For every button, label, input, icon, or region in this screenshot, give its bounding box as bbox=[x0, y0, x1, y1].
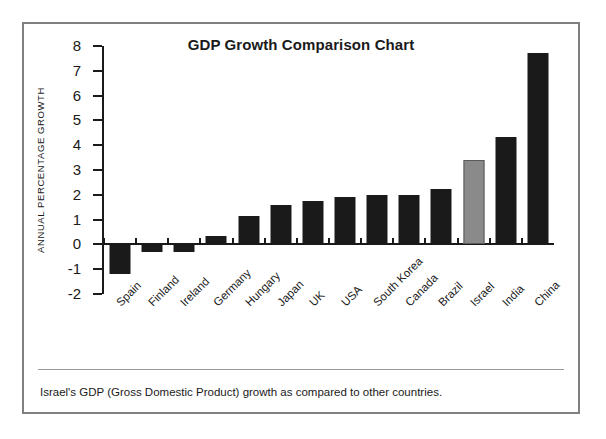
y-axis-tick: 4 bbox=[93, 144, 102, 146]
y-axis-tick: 2 bbox=[93, 194, 102, 196]
x-axis-tick bbox=[360, 238, 362, 244]
y-axis-tick-label: 6 bbox=[73, 86, 81, 103]
x-axis-tick bbox=[135, 238, 137, 244]
y-axis-tick: 7 bbox=[93, 70, 102, 72]
bar-south-korea[interactable] bbox=[367, 195, 388, 245]
bar-brazil[interactable] bbox=[431, 189, 452, 245]
y-axis-tick: 8 bbox=[93, 45, 102, 47]
bar-uk[interactable] bbox=[302, 201, 323, 244]
bar-slot bbox=[361, 46, 393, 294]
y-axis-title: ANNUAL PERCENTAGE GROWTH bbox=[35, 87, 46, 253]
bar-israel[interactable] bbox=[463, 160, 484, 244]
bar-slot bbox=[265, 46, 297, 294]
x-axis-tick bbox=[264, 238, 266, 244]
y-axis-tick: 6 bbox=[93, 95, 102, 97]
y-axis-tick: 0 bbox=[93, 243, 102, 245]
bar-japan[interactable] bbox=[270, 205, 291, 245]
bar-series bbox=[104, 46, 554, 294]
bar-hungary[interactable] bbox=[238, 216, 259, 245]
x-axis-tick bbox=[521, 238, 523, 244]
x-axis-tick bbox=[328, 238, 330, 244]
y-axis-tick-label: 1 bbox=[73, 210, 81, 227]
y-axis-tick-label: -1 bbox=[68, 260, 81, 277]
bar-slot bbox=[104, 46, 136, 294]
y-axis-tick: 3 bbox=[93, 169, 102, 171]
bar-slot bbox=[297, 46, 329, 294]
bar-canada[interactable] bbox=[399, 195, 420, 245]
x-axis-tick bbox=[103, 238, 105, 244]
x-axis-tick bbox=[167, 238, 169, 244]
y-axis-tick-label: 5 bbox=[73, 111, 81, 128]
bar-finland[interactable] bbox=[142, 244, 163, 251]
plot-area: ANNUAL PERCENTAGE GROWTH 876543210-1-2 S… bbox=[102, 46, 554, 338]
bar-usa[interactable] bbox=[335, 197, 356, 244]
bar-germany[interactable] bbox=[206, 236, 227, 245]
x-axis-tick bbox=[457, 238, 459, 244]
bar-ireland[interactable] bbox=[174, 244, 195, 251]
x-axis-tick bbox=[424, 238, 426, 244]
x-axis-tick bbox=[489, 238, 491, 244]
bar-slot bbox=[522, 46, 554, 294]
bar-india[interactable] bbox=[495, 137, 516, 245]
bar-slot bbox=[200, 46, 232, 294]
figure-caption: Israel's GDP (Gross Domestic Product) gr… bbox=[40, 386, 562, 398]
figure-frame: GDP Growth Comparison Chart ANNUAL PERCE… bbox=[22, 22, 580, 414]
y-axis-tick-label: 0 bbox=[73, 235, 81, 252]
caption-divider bbox=[38, 369, 564, 370]
bar-slot bbox=[136, 46, 168, 294]
y-axis-tick: -2 bbox=[93, 293, 102, 295]
x-axis-tick bbox=[392, 238, 394, 244]
bar-slot bbox=[329, 46, 361, 294]
y-axis-tick: 5 bbox=[93, 119, 102, 121]
y-axis-tick-label: 8 bbox=[73, 37, 81, 54]
y-axis-tick-label: 4 bbox=[73, 136, 81, 153]
bar-slot bbox=[425, 46, 457, 294]
bar-china[interactable] bbox=[527, 53, 548, 244]
bar-slot bbox=[490, 46, 522, 294]
x-axis-tick bbox=[296, 238, 298, 244]
bar-slot bbox=[393, 46, 425, 294]
x-axis-tick bbox=[232, 238, 234, 244]
bar-slot bbox=[233, 46, 265, 294]
y-axis-tick-label: 2 bbox=[73, 185, 81, 202]
y-axis-tick-label: -2 bbox=[68, 285, 81, 302]
bar-slot bbox=[458, 46, 490, 294]
y-axis-tick-label: 7 bbox=[73, 61, 81, 78]
bar-slot bbox=[168, 46, 200, 294]
bar-spain[interactable] bbox=[110, 244, 131, 274]
y-axis-tick-label: 3 bbox=[73, 161, 81, 178]
x-axis-tick bbox=[199, 238, 201, 244]
y-axis-tick: -1 bbox=[93, 268, 102, 270]
y-axis-tick: 1 bbox=[93, 219, 102, 221]
